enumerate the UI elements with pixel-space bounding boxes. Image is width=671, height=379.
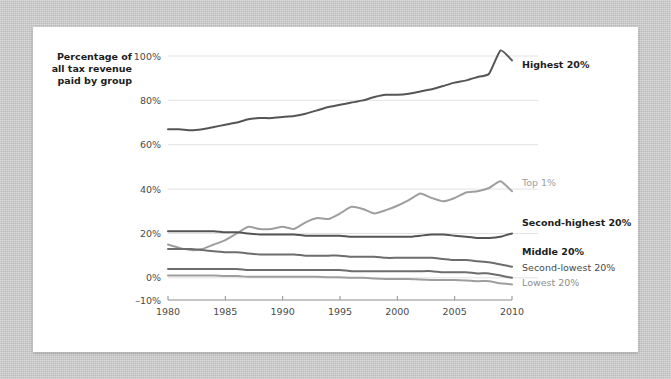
x-axis-tick-label: 1980 — [156, 306, 180, 317]
y-axis-tick-label: 0% — [146, 272, 161, 283]
series-label-second-lowest-20: Second-lowest 20% — [522, 262, 615, 273]
series-labels-group: Highest 20%Top 1%Second-highest 20%Middl… — [521, 59, 632, 288]
y-axis-tick-labels: –10%0%20%40%60%80%100% — [134, 51, 161, 306]
data-line-middle-20 — [168, 249, 512, 267]
y-axis-tick-label: 20% — [140, 228, 161, 239]
data-line-lowest-20 — [168, 276, 512, 285]
y-axis-title: Percentage ofall tax revenuepaid by grou… — [52, 51, 133, 86]
y-axis-title-line: Percentage of — [57, 51, 133, 62]
x-axis-tick-label: 1985 — [213, 306, 237, 317]
series-label-second-highest-20: Second-highest 20% — [522, 217, 632, 228]
series-label-highest-20: Highest 20% — [522, 59, 590, 70]
chart-card: –10%0%20%40%60%80%100% 19801985199019952… — [33, 27, 638, 352]
y-axis-tick-label: –10% — [135, 295, 161, 306]
y-axis-tick-label: 60% — [140, 139, 161, 150]
y-axis-tick-label: 100% — [134, 51, 161, 62]
data-line-second-highest-20 — [168, 231, 512, 238]
x-axis-ticks — [168, 296, 512, 300]
data-series-group — [168, 50, 512, 284]
y-axis-title-line: all tax revenue — [52, 63, 132, 74]
line-chart: –10%0%20%40%60%80%100% 19801985199019952… — [33, 27, 638, 352]
series-label-lowest-20: Lowest 20% — [522, 277, 579, 288]
x-axis-tick-label: 2000 — [385, 306, 409, 317]
y-axis-tick-label: 80% — [140, 95, 161, 106]
y-axis-title-line: paid by group — [58, 75, 133, 86]
x-axis-tick-label: 1995 — [328, 306, 352, 317]
series-label-middle-20: Middle 20% — [522, 246, 585, 257]
x-axis-tick-labels: 1980198519901995200020052010 — [156, 306, 524, 317]
x-axis-tick-label: 1990 — [271, 306, 295, 317]
series-label-top-1: Top 1% — [521, 177, 556, 188]
gridlines-group — [168, 56, 538, 278]
y-axis-tick-label: 40% — [140, 184, 161, 195]
chart-figure: –10%0%20%40%60%80%100% 19801985199019952… — [33, 27, 638, 352]
x-axis-tick-label: 2005 — [443, 306, 467, 317]
x-axis-tick-label: 2010 — [500, 306, 524, 317]
data-line-top-1 — [168, 181, 512, 250]
data-line-highest-20 — [168, 50, 512, 130]
